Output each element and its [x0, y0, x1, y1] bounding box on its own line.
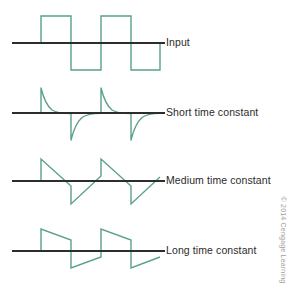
waveform-figure: Input Short time constant Medium time co… [0, 0, 289, 294]
input-waveform-group [12, 16, 165, 70]
copyright-text: © 2014 Cengage Learning [280, 197, 287, 284]
medium-time-constant-label: Medium time constant [166, 175, 271, 186]
long-time-constant-waveform-trace [41, 229, 160, 268]
short-time-constant-waveform-group [12, 88, 165, 140]
copyright-notice: © 2014 Cengage Learning [277, 188, 289, 292]
long-time-constant-waveform-group [12, 229, 165, 268]
long-time-constant-label: Long time constant [166, 245, 257, 256]
medium-time-constant-waveform-group [12, 159, 165, 204]
short-time-constant-label: Short time constant [166, 107, 258, 118]
input-label: Input [166, 37, 190, 48]
